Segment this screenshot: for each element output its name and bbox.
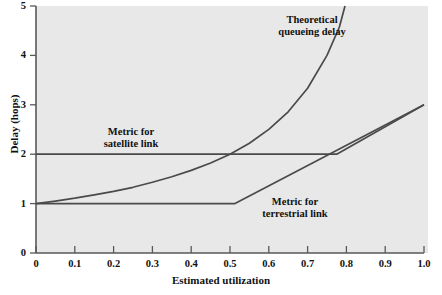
annotation-metric-terrestrial-link: Metric for terrestrial link <box>239 196 351 221</box>
y-tick-label-0: 0 <box>12 247 26 258</box>
annotation-theoretical-queueing-delay: Theoretical queueing delay <box>253 14 371 39</box>
x-tick-label-10: 1.0 <box>411 258 437 269</box>
x-tick-label-6: 0.6 <box>256 258 282 269</box>
chart-figure: 0 1 2 3 4 5 0 0.1 0.2 0.3 0.4 0.5 0.6 0.… <box>0 0 442 295</box>
annotation-metric-satellite-link: Metric for satellite link <box>76 126 186 151</box>
x-tick-label-5: 0.5 <box>217 258 243 269</box>
chart-canvas <box>0 0 442 295</box>
x-tick-label-8: 0.8 <box>333 258 359 269</box>
x-tick-label-2: 0.2 <box>101 258 127 269</box>
y-axis-title: Delay (hops) <box>8 84 20 164</box>
x-tick-label-1: 0.1 <box>62 258 88 269</box>
annotation-satellite-line-1: Metric for <box>76 126 186 138</box>
x-tick-label-4: 0.4 <box>178 258 204 269</box>
x-tick-label-3: 0.3 <box>139 258 165 269</box>
y-tick-label-5: 5 <box>12 0 26 11</box>
annotation-theoretical-line-1: Theoretical <box>253 14 371 26</box>
x-tick-label-7: 0.7 <box>295 258 321 269</box>
x-tick-label-9: 0.9 <box>372 258 398 269</box>
y-tick-label-1: 1 <box>12 198 26 209</box>
x-tick-label-0: 0 <box>23 258 49 269</box>
x-axis-ticks <box>36 246 424 253</box>
y-tick-label-4: 4 <box>12 49 26 60</box>
annotation-terrestrial-line-1: Metric for <box>239 196 351 208</box>
annotation-satellite-line-2: satellite link <box>76 138 186 150</box>
x-axis-title: Estimated utilization <box>0 274 442 286</box>
annotation-terrestrial-line-2: terrestrial link <box>239 208 351 220</box>
annotation-theoretical-line-2: queueing delay <box>253 26 371 38</box>
y-axis-ticks <box>30 6 36 253</box>
